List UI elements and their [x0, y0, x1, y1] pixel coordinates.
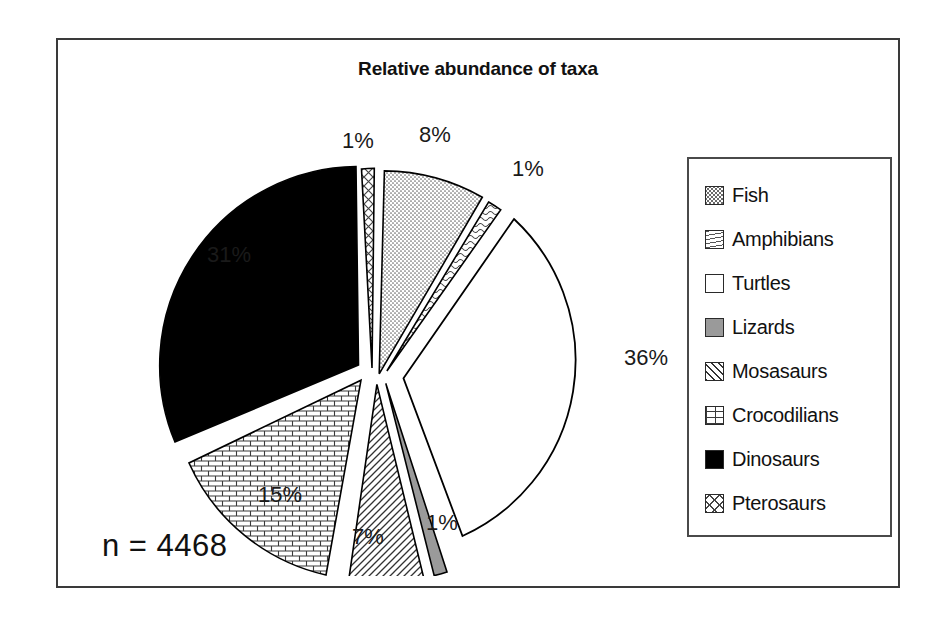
legend-swatch-pterosaurs — [705, 494, 724, 513]
legend-swatch-fish — [705, 186, 724, 205]
chart-frame: Relative abundance of taxa — [56, 38, 900, 588]
slice-label-lizards: 1% — [426, 510, 458, 536]
legend-label-turtles: Turtles — [732, 272, 790, 295]
pie-svg — [58, 96, 678, 576]
legend-item-lizards[interactable]: Lizards — [705, 305, 884, 349]
legend-swatch-lizards — [705, 318, 724, 337]
legend-label-pterosaurs: Pterosaurs — [732, 492, 826, 515]
legend-item-amphibians[interactable]: Amphibians — [705, 217, 884, 261]
legend-item-crocodilians[interactable]: Crocodilians — [705, 393, 884, 437]
legend-label-amphibians: Amphibians — [732, 228, 834, 251]
legend-swatch-amphibians — [705, 230, 724, 249]
legend-swatch-crocodilians — [705, 406, 724, 425]
slice-label-crocodilians: 15% — [258, 482, 302, 508]
legend-swatch-dinosaurs — [705, 450, 724, 469]
slice-label-pterosaurs: 1% — [342, 128, 374, 154]
legend-label-lizards: Lizards — [732, 316, 794, 339]
slice-label-turtles: 36% — [624, 345, 668, 371]
slice-label-dinosaurs: 31% — [207, 242, 251, 268]
pie-slice-pterosaurs[interactable] — [362, 168, 375, 368]
legend-item-turtles[interactable]: Turtles — [705, 261, 884, 305]
sample-size-annotation: n = 4468 — [102, 528, 228, 564]
legend-item-mosasaurs[interactable]: Mosasaurs — [705, 349, 884, 393]
slice-label-mosasaurs: 7% — [352, 524, 384, 550]
legend-item-dinosaurs[interactable]: Dinosaurs — [705, 437, 884, 481]
legend-swatch-turtles — [705, 274, 724, 293]
pie-chart: 1% 8% 1% 36% 31% 15% 7% 1% — [58, 96, 678, 576]
page-title: Relative abundance of taxa — [58, 58, 898, 80]
legend-item-fish[interactable]: Fish — [705, 173, 884, 217]
legend-label-fish: Fish — [732, 184, 769, 207]
chart-figure: Relative abundance of taxa — [0, 0, 948, 622]
legend-label-dinosaurs: Dinosaurs — [732, 448, 819, 471]
legend-label-mosasaurs: Mosasaurs — [732, 360, 827, 383]
legend-item-pterosaurs[interactable]: Pterosaurs — [705, 481, 884, 525]
slice-label-amphibians: 1% — [512, 156, 544, 182]
slice-label-fish: 8% — [419, 122, 451, 148]
chart-legend: Fish Amphibians Turtles Lizards Mosasaur — [687, 157, 892, 537]
legend-label-crocodilians: Crocodilians — [732, 404, 838, 427]
legend-swatch-mosasaurs — [705, 362, 724, 381]
legend-list: Fish Amphibians Turtles Lizards Mosasaur — [705, 173, 884, 525]
